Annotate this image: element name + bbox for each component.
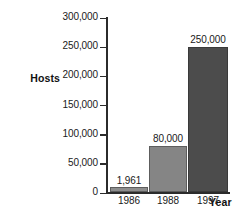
y-tick-label-100000: 100,000 bbox=[36, 128, 98, 139]
bar-chart: Hosts Year 300,000 250,000 200,000 150,0… bbox=[0, 0, 251, 220]
y-tick-label-50000: 50,000 bbox=[36, 157, 98, 168]
x-tick-label-1986: 1986 bbox=[109, 195, 149, 206]
y-tick-mark-300000 bbox=[100, 18, 107, 19]
y-tick-label-150000: 150,000 bbox=[36, 99, 98, 110]
y-tick-label-300000: 300,000 bbox=[36, 11, 98, 22]
bar-value-1986: 1,961 bbox=[98, 175, 160, 186]
y-tick-mark-50000 bbox=[100, 163, 107, 164]
x-tick-label-1997: 1997 bbox=[188, 195, 228, 206]
y-tick-mark-150000 bbox=[100, 105, 107, 106]
y-tick-mark-100000 bbox=[100, 134, 107, 135]
y-tick-label-0: 0 bbox=[36, 186, 98, 197]
x-axis-line bbox=[106, 192, 230, 194]
y-tick-label-250000: 250,000 bbox=[36, 40, 98, 51]
x-tick-label-1988: 1988 bbox=[148, 195, 188, 206]
y-tick-mark-0 bbox=[100, 193, 107, 194]
bar-1997 bbox=[188, 47, 228, 193]
bar-value-1997: 250,000 bbox=[177, 34, 239, 45]
y-tick-label-200000: 200,000 bbox=[36, 69, 98, 80]
bar-1986 bbox=[110, 187, 148, 192]
y-tick-mark-200000 bbox=[100, 76, 107, 77]
y-tick-mark-250000 bbox=[100, 47, 107, 48]
bar-value-1988: 80,000 bbox=[137, 133, 199, 144]
